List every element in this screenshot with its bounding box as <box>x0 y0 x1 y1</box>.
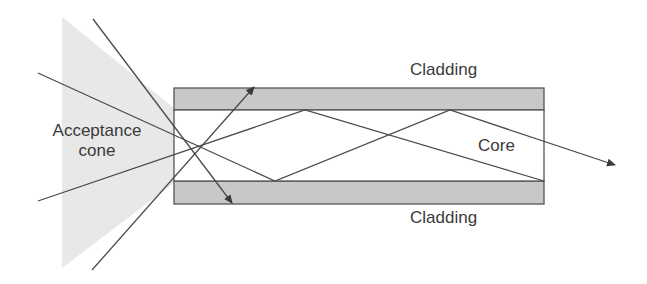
acceptance-label-line2: cone <box>47 141 147 161</box>
acceptance-cone-label: Acceptance cone <box>47 121 147 161</box>
cladding-top-shape <box>174 88 544 110</box>
cladding-top-label: Cladding <box>410 60 477 80</box>
acceptance-label-line1: Acceptance <box>47 121 147 141</box>
core-label: Core <box>478 136 515 156</box>
cladding-bottom-label: Cladding <box>410 208 477 228</box>
